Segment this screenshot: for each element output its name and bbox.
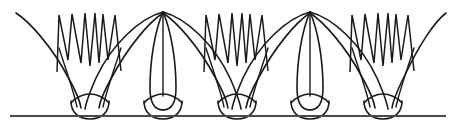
leaf-outer-left-right xyxy=(99,13,163,108)
leaf-outer-right-left xyxy=(310,13,375,108)
zigzag-crown-left xyxy=(57,13,121,72)
body-wall-right-inner-right xyxy=(396,48,414,107)
open-flower-right xyxy=(310,13,446,119)
frieze-illustration: Egyptian papyrus-and-lotus frieze Repeat… xyxy=(0,0,452,131)
zigzag-crown-center xyxy=(204,13,268,72)
zigzag-path-right xyxy=(350,13,414,72)
frieze-canvas: Egyptian papyrus-and-lotus frieze Repeat… xyxy=(0,0,452,131)
zigzag-path-left xyxy=(57,13,121,72)
open-flower-left xyxy=(16,13,163,119)
body-wall-left-inner-right xyxy=(103,48,121,107)
leaf-outer-center-right xyxy=(246,13,310,108)
open-flower-center xyxy=(163,13,310,119)
zigzag-crown-right xyxy=(350,13,414,72)
zigzag-path-center xyxy=(204,13,268,72)
body-wall-center-inner-right xyxy=(250,48,268,107)
